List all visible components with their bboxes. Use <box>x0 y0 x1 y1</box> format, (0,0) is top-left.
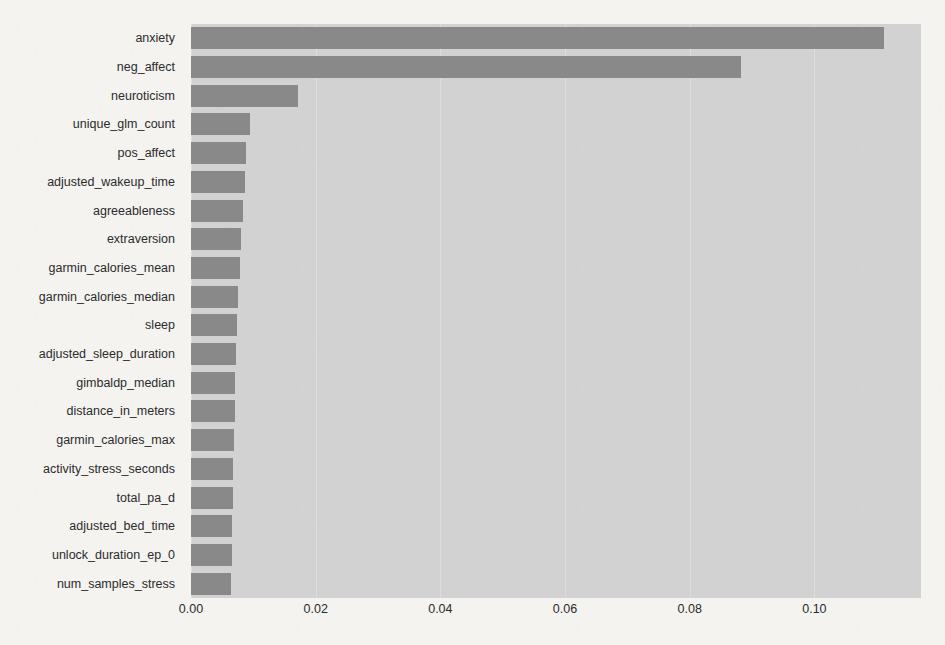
x-gridline-2 <box>440 24 441 598</box>
bar-neg_affect <box>191 56 741 78</box>
bar-row <box>191 171 921 193</box>
x-gridline-5 <box>814 24 815 598</box>
y-tick-label-adjusted_bed_time: adjusted_bed_time <box>69 515 175 537</box>
bar-total_pa_d <box>191 487 233 509</box>
bar-row <box>191 200 921 222</box>
y-axis-tick-labels: anxietyneg_affectneuroticismunique_glm_c… <box>0 24 183 598</box>
y-tick-label-distance_in_meters: distance_in_meters <box>67 400 175 422</box>
x-tick-label-0.10: 0.10 <box>802 602 826 616</box>
x-gridline-4 <box>690 24 691 598</box>
bar-sleep <box>191 314 237 336</box>
x-tick-label-0.06: 0.06 <box>553 602 577 616</box>
bar-row <box>191 142 921 164</box>
y-tick-label-sleep: sleep <box>145 314 175 336</box>
bar-row <box>191 544 921 566</box>
bar-row <box>191 257 921 279</box>
bar-garmin_calories_max <box>191 429 234 451</box>
bar-row <box>191 56 921 78</box>
bar-garmin_calories_mean <box>191 257 240 279</box>
bar-row <box>191 429 921 451</box>
bar-row <box>191 487 921 509</box>
y-tick-label-extraversion: extraversion <box>107 228 175 250</box>
x-tick-label-0.00: 0.00 <box>179 602 203 616</box>
bar-chart-figure: anxietyneg_affectneuroticismunique_glm_c… <box>0 0 945 645</box>
y-tick-label-neg_affect: neg_affect <box>117 56 175 78</box>
bar-activity_stress_seconds <box>191 458 233 480</box>
x-axis-tick-labels: 0.000.020.040.060.080.10 <box>191 602 921 626</box>
bar-row <box>191 458 921 480</box>
y-tick-label-garmin_calories_max: garmin_calories_max <box>56 429 175 451</box>
y-tick-label-unlock_duration_ep_0: unlock_duration_ep_0 <box>52 544 175 566</box>
bar-num_samples_stress <box>191 573 231 595</box>
bar-row <box>191 85 921 107</box>
bar-anxiety <box>191 27 884 49</box>
bar-row <box>191 372 921 394</box>
bar-pos_affect <box>191 142 246 164</box>
bar-adjusted_wakeup_time <box>191 171 245 193</box>
y-tick-label-agreeableness: agreeableness <box>93 200 175 222</box>
bar-agreeableness <box>191 200 243 222</box>
y-tick-label-unique_glm_count: unique_glm_count <box>73 113 175 135</box>
bar-garmin_calories_median <box>191 286 238 308</box>
y-tick-label-adjusted_sleep_duration: adjusted_sleep_duration <box>39 343 175 365</box>
x-gridline-0 <box>191 24 192 598</box>
x-gridline-1 <box>316 24 317 598</box>
bar-gimbaldp_median <box>191 372 235 394</box>
x-tick-label-0.08: 0.08 <box>678 602 702 616</box>
bar-extraversion <box>191 228 241 250</box>
y-tick-label-garmin_calories_median: garmin_calories_median <box>39 286 175 308</box>
plot-area <box>191 24 921 598</box>
bar-distance_in_meters <box>191 400 235 422</box>
x-gridline-3 <box>565 24 566 598</box>
y-tick-label-garmin_calories_mean: garmin_calories_mean <box>49 257 175 279</box>
bar-neuroticism <box>191 85 298 107</box>
x-tick-label-0.04: 0.04 <box>428 602 452 616</box>
bar-row <box>191 573 921 595</box>
bar-unlock_duration_ep_0 <box>191 544 232 566</box>
y-tick-label-num_samples_stress: num_samples_stress <box>57 573 175 595</box>
y-tick-label-pos_affect: pos_affect <box>118 142 175 164</box>
bar-row <box>191 400 921 422</box>
y-tick-label-activity_stress_seconds: activity_stress_seconds <box>43 458 175 480</box>
bar-row <box>191 314 921 336</box>
y-tick-label-neuroticism: neuroticism <box>111 85 175 107</box>
bar-row <box>191 343 921 365</box>
y-tick-label-total_pa_d: total_pa_d <box>117 487 175 509</box>
bar-row <box>191 515 921 537</box>
bar-unique_glm_count <box>191 113 250 135</box>
x-tick-label-0.02: 0.02 <box>304 602 328 616</box>
y-tick-label-gimbaldp_median: gimbaldp_median <box>76 372 175 394</box>
bar-adjusted_bed_time <box>191 515 232 537</box>
y-tick-label-adjusted_wakeup_time: adjusted_wakeup_time <box>47 171 175 193</box>
bar-row <box>191 228 921 250</box>
y-tick-label-anxiety: anxiety <box>135 27 175 49</box>
bar-row <box>191 27 921 49</box>
bar-row <box>191 113 921 135</box>
bar-adjusted_sleep_duration <box>191 343 236 365</box>
bar-row <box>191 286 921 308</box>
